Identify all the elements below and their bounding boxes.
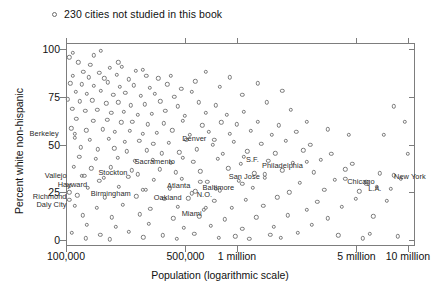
city-label: Miami <box>182 209 202 218</box>
data-point <box>209 224 213 228</box>
data-point <box>68 81 72 85</box>
city-label: Baltimore <box>203 183 235 192</box>
data-point <box>135 113 139 117</box>
data-point <box>86 75 90 79</box>
data-point <box>360 236 364 240</box>
data-point <box>343 167 347 171</box>
data-point <box>120 65 124 69</box>
data-point <box>168 73 172 77</box>
data-point <box>310 223 314 227</box>
data-point <box>163 109 167 113</box>
data-point <box>214 103 218 107</box>
data-point <box>118 85 122 89</box>
data-point <box>193 79 197 83</box>
data-point <box>71 50 75 54</box>
data-point <box>109 111 113 115</box>
chart-legend: 230 cities not studied in this book <box>52 8 222 20</box>
data-point <box>182 114 186 118</box>
city-label: Daly City <box>36 200 66 209</box>
data-point <box>141 235 145 239</box>
data-point <box>105 117 109 121</box>
data-point <box>167 140 171 144</box>
data-point <box>147 222 151 226</box>
data-point <box>141 132 145 136</box>
data-point <box>195 147 199 151</box>
data-point <box>158 99 162 103</box>
data-point <box>186 196 190 200</box>
city-label: New York <box>394 172 426 181</box>
data-point <box>228 132 232 136</box>
data-point <box>165 82 169 86</box>
data-point <box>196 100 200 104</box>
data-point <box>144 73 148 77</box>
city-data-point <box>305 160 309 164</box>
x-tick-label: 10 million <box>386 250 430 262</box>
city-label: Sacramento <box>135 157 175 166</box>
city-label: L.A. <box>368 184 381 193</box>
data-point <box>141 68 145 72</box>
data-point <box>179 87 183 91</box>
data-point <box>392 104 396 108</box>
data-point <box>77 155 81 159</box>
data-point <box>207 130 211 134</box>
data-point <box>95 108 99 112</box>
data-point <box>289 108 293 112</box>
data-point <box>78 99 82 103</box>
data-point <box>395 234 399 238</box>
data-point <box>256 81 260 85</box>
data-point <box>357 189 361 193</box>
data-point <box>151 141 155 145</box>
data-point <box>217 236 221 240</box>
open-circle-icon <box>52 12 57 17</box>
data-point <box>88 63 92 67</box>
data-point <box>130 119 134 123</box>
data-point <box>259 141 263 145</box>
data-point <box>312 170 316 174</box>
data-point <box>177 150 181 154</box>
data-point <box>326 216 330 220</box>
data-point <box>200 123 204 127</box>
data-point <box>122 139 126 143</box>
data-point <box>115 156 119 160</box>
data-point <box>367 231 371 235</box>
data-point <box>271 225 275 229</box>
data-point <box>240 93 244 97</box>
data-point <box>171 216 175 220</box>
data-point <box>263 176 267 180</box>
data-point <box>129 168 133 172</box>
data-point <box>127 77 131 81</box>
data-point <box>148 86 152 90</box>
data-point <box>119 120 123 124</box>
data-point <box>132 83 136 87</box>
data-point <box>83 236 87 240</box>
data-point <box>113 225 117 229</box>
data-point <box>114 72 118 76</box>
data-point <box>125 149 129 153</box>
data-point <box>174 170 178 174</box>
data-point <box>305 119 309 123</box>
data-point <box>74 90 78 94</box>
data-point <box>106 137 110 141</box>
data-point <box>223 217 227 221</box>
data-point <box>296 230 300 234</box>
data-point <box>149 112 153 116</box>
city-data-point <box>203 205 207 209</box>
data-point <box>245 149 249 153</box>
city-data-point <box>135 172 139 176</box>
data-point <box>273 151 277 155</box>
data-point <box>230 205 234 209</box>
city-data-point <box>240 182 244 186</box>
data-point <box>221 152 225 156</box>
data-point <box>71 164 75 168</box>
data-point <box>74 116 78 120</box>
data-point <box>162 121 166 125</box>
data-point <box>81 213 85 217</box>
data-point <box>157 167 161 171</box>
data-point <box>106 80 110 84</box>
data-point <box>336 233 340 237</box>
data-point <box>75 193 79 197</box>
data-point <box>231 139 235 143</box>
x-tick-label: 5 million <box>337 250 376 262</box>
data-point <box>134 69 138 73</box>
data-point <box>121 110 125 114</box>
